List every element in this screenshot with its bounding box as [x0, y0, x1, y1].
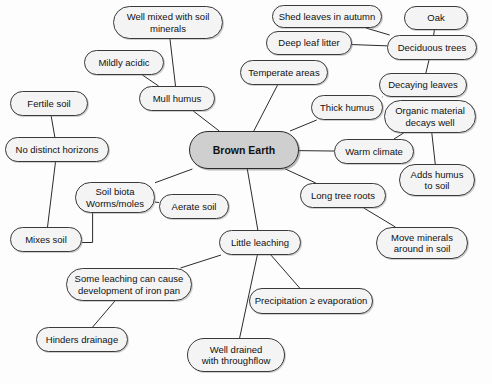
- node-shed-leaves[interactable]: Shed leaves in autumn: [272, 5, 382, 28]
- node-brown-earth[interactable]: Brown Earth: [189, 131, 299, 169]
- node-warm-climate[interactable]: Warm climate: [334, 139, 414, 164]
- edge-brown-earth-to-thick-humus: [290, 120, 317, 131]
- node-label: Hinders drainage: [46, 334, 118, 345]
- node-label: Mildly acidic: [98, 57, 149, 68]
- node-label: Fertile soil: [27, 98, 70, 109]
- node-label: Oak: [427, 12, 444, 23]
- edge-mull-humus-to-mildly-acidic: [142, 75, 158, 86]
- edge-brown-earth-to-soil-biota: [155, 169, 192, 183]
- node-adds-humus[interactable]: Adds humus to soil: [399, 164, 475, 196]
- node-fertile-soil[interactable]: Fertile soil: [10, 91, 88, 116]
- node-label: No distinct horizons: [16, 144, 99, 155]
- edge-fertile-soil-to-no-distinct: [51, 116, 55, 137]
- edge-organic-material-to-adds-humus: [432, 133, 435, 164]
- node-label: Little leaching: [231, 237, 289, 248]
- node-soil-biota[interactable]: Soil biota Worms/moles: [75, 182, 155, 213]
- edge-soil-biota-to-mixes-soil: [82, 213, 93, 243]
- node-little-leaching[interactable]: Little leaching: [219, 230, 301, 255]
- edge-some-leaching-to-hinders-drainage: [93, 301, 115, 327]
- node-label: Organic material decays well: [395, 105, 465, 127]
- edge-brown-earth-to-mull-humus: [193, 111, 219, 131]
- node-long-tree-roots[interactable]: Long tree roots: [300, 183, 386, 208]
- edge-no-distinct-to-mixes-soil: [48, 162, 56, 227]
- node-label: Temperate areas: [248, 67, 319, 78]
- node-label: Deciduous trees: [398, 42, 467, 53]
- node-label: Warm climate: [345, 146, 403, 157]
- node-label: Thick humus: [320, 102, 374, 113]
- node-label: Precipitation ≥ evaporation: [255, 295, 367, 306]
- edge-brown-earth-to-long-tree-roots: [285, 169, 315, 183]
- node-hinders-drainage[interactable]: Hinders drainage: [36, 327, 128, 352]
- edge-little-leaching-to-precipitation: [271, 255, 300, 288]
- node-label: Mull humus: [153, 93, 202, 104]
- node-label: Adds humus to soil: [411, 169, 464, 191]
- node-mildly-acidic[interactable]: Mildly acidic: [84, 50, 164, 75]
- node-well-mixed[interactable]: Well mixed with soil minerals: [113, 6, 223, 39]
- node-temperate-areas[interactable]: Temperate areas: [240, 60, 328, 85]
- node-organic-material[interactable]: Organic material decays well: [384, 100, 476, 133]
- node-label: Aerate soil: [172, 201, 217, 212]
- node-well-drained[interactable]: Well drained with throughflow: [187, 338, 285, 372]
- node-aerate-soil[interactable]: Aerate soil: [159, 194, 229, 219]
- edge-decaying-leaves-to-deciduous-trees: [426, 60, 429, 73]
- node-move-minerals[interactable]: Move minerals around in soil: [376, 227, 468, 259]
- node-label: Deep leaf litter: [278, 37, 339, 48]
- node-label: Decaying leaves: [388, 79, 458, 90]
- node-deep-leaf-litter[interactable]: Deep leaf litter: [266, 31, 352, 55]
- node-thick-humus[interactable]: Thick humus: [311, 95, 383, 120]
- node-mixes-soil[interactable]: Mixes soil: [10, 227, 82, 252]
- node-no-distinct[interactable]: No distinct horizons: [5, 137, 109, 162]
- edge-mull-humus-to-well-mixed: [170, 39, 176, 86]
- mind-map-canvas: Brown EarthWell mixed with soil minerals…: [0, 0, 492, 384]
- node-label: Move minerals around in soil: [391, 232, 453, 254]
- edge-brown-earth-to-temperate-areas: [254, 85, 278, 131]
- node-mull-humus[interactable]: Mull humus: [139, 86, 215, 111]
- node-label: Soil biota Worms/moles: [86, 186, 144, 208]
- node-label: Some leaching can cause development of i…: [75, 273, 184, 295]
- edge-deciduous-trees-to-deep-leaf-litter: [352, 45, 387, 46]
- edge-deciduous-trees-to-shed-leaves: [366, 28, 390, 35]
- node-label: Shed leaves in autumn: [279, 11, 376, 22]
- node-label: Mixes soil: [25, 234, 67, 245]
- node-oak[interactable]: Oak: [404, 6, 468, 30]
- node-deciduous-trees[interactable]: Deciduous trees: [387, 35, 477, 60]
- node-label: Brown Earth: [213, 144, 275, 156]
- node-precipitation[interactable]: Precipitation ≥ evaporation: [249, 288, 373, 314]
- node-label: Long tree roots: [311, 190, 375, 201]
- node-label: Well drained with throughflow: [202, 344, 271, 366]
- node-label: Well mixed with soil minerals: [127, 11, 210, 33]
- node-decaying-leaves[interactable]: Decaying leaves: [379, 73, 467, 97]
- edge-brown-earth-to-little-leaching: [247, 169, 258, 230]
- node-some-leaching[interactable]: Some leaching can cause development of i…: [66, 268, 192, 301]
- edge-little-leaching-to-some-leaching: [180, 255, 221, 268]
- edge-long-tree-roots-to-move-minerals: [364, 208, 396, 227]
